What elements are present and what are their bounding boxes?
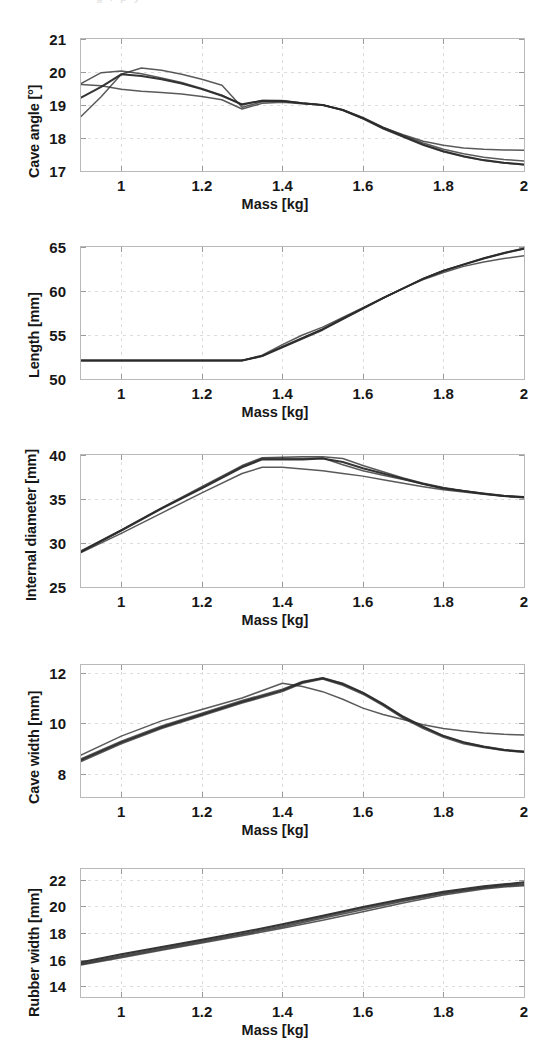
axis-label-x-cave-angle: Mass [kg] bbox=[0, 196, 550, 212]
series-line bbox=[81, 85, 524, 162]
x-tick-mark bbox=[524, 665, 525, 670]
series-line bbox=[81, 74, 524, 164]
x-tick-label: 1.4 bbox=[272, 593, 293, 610]
y-tick-mark bbox=[81, 587, 86, 588]
x-tick-label: 1.8 bbox=[433, 593, 454, 610]
y-tick-label: 17 bbox=[49, 163, 66, 180]
x-tick-label: 1 bbox=[117, 177, 125, 194]
series-line bbox=[81, 458, 524, 551]
y-tick-labels-cave-angle: 1718192021 bbox=[30, 18, 66, 178]
x-tick-label: 1.6 bbox=[352, 177, 373, 194]
x-tick-label: 1.6 bbox=[352, 1003, 373, 1020]
y-tick-label: 18 bbox=[49, 925, 66, 942]
x-tick-label: 2 bbox=[520, 1003, 528, 1020]
y-tick-label: 14 bbox=[49, 978, 66, 995]
x-tick-label: 1 bbox=[117, 593, 125, 610]
series-line bbox=[81, 256, 524, 361]
x-tick-label: 1.4 bbox=[272, 1003, 293, 1020]
series-line bbox=[81, 248, 524, 360]
plot-area-internal-diameter bbox=[80, 454, 525, 588]
y-tick-labels-rubber-width: 1416182022 bbox=[30, 852, 66, 1012]
series-line bbox=[81, 71, 524, 165]
x-tick-label: 1.8 bbox=[433, 177, 454, 194]
y-tick-label: 55 bbox=[49, 327, 66, 344]
series-layer bbox=[81, 247, 524, 379]
plot-area-rubber-width bbox=[80, 868, 525, 998]
x-tick-label: 1.8 bbox=[433, 1003, 454, 1020]
y-tick-label: 21 bbox=[49, 31, 66, 48]
y-tick-label: 16 bbox=[49, 951, 66, 968]
series-layer bbox=[81, 665, 524, 797]
series-line bbox=[81, 457, 524, 551]
y-tick-labels-cave-width: 81012 bbox=[30, 646, 66, 806]
y-tick-label: 12 bbox=[49, 664, 66, 681]
scan-artifact-text: g i p y bbox=[0, 0, 550, 9]
y-tick-label: 10 bbox=[49, 715, 66, 732]
series-line bbox=[81, 678, 524, 759]
y-tick-label: 50 bbox=[49, 371, 66, 388]
x-tick-label: 1.6 bbox=[352, 803, 373, 820]
y-tick-label: 18 bbox=[49, 130, 66, 147]
y-tick-mark bbox=[519, 587, 524, 588]
y-tick-labels-length: 50556065 bbox=[30, 228, 66, 388]
x-tick-label: 2 bbox=[520, 177, 528, 194]
x-tick-label: 1.6 bbox=[352, 593, 373, 610]
subplot-cave-angle: Cave angle [°] 1718192021 Mass [kg] 11.2… bbox=[0, 18, 550, 218]
x-tick-label: 1 bbox=[117, 803, 125, 820]
series-line bbox=[81, 679, 524, 762]
axis-label-x-length: Mass [kg] bbox=[0, 404, 550, 420]
y-tick-label: 60 bbox=[49, 283, 66, 300]
subplot-rubber-width: Rubber width [mm] 1416182022 Mass [kg] 1… bbox=[0, 852, 550, 1050]
y-tick-label: 22 bbox=[49, 871, 66, 888]
x-tick-label: 1.4 bbox=[272, 803, 293, 820]
y-tick-label: 20 bbox=[49, 898, 66, 915]
x-tick-label: 2 bbox=[520, 803, 528, 820]
y-tick-mark bbox=[519, 171, 524, 172]
x-tick-label: 1.2 bbox=[191, 177, 212, 194]
x-tick-label: 1.4 bbox=[272, 385, 293, 402]
x-tick-mark bbox=[524, 374, 525, 379]
x-tick-mark bbox=[524, 39, 525, 44]
series-line bbox=[81, 467, 524, 552]
y-tick-label: 25 bbox=[49, 579, 66, 596]
series-line bbox=[81, 886, 524, 965]
x-tick-mark bbox=[524, 455, 525, 460]
x-tick-mark bbox=[524, 869, 525, 874]
series-layer bbox=[81, 39, 524, 171]
plot-area-length bbox=[80, 246, 525, 380]
x-tick-label: 1.2 bbox=[191, 803, 212, 820]
x-tick-label: 1 bbox=[117, 385, 125, 402]
x-tick-mark bbox=[524, 166, 525, 171]
x-tick-label: 2 bbox=[520, 385, 528, 402]
series-line bbox=[81, 459, 524, 552]
y-tick-labels-internal-diameter: 25303540 bbox=[30, 436, 66, 596]
y-tick-label: 20 bbox=[49, 64, 66, 81]
y-tick-mark bbox=[81, 379, 86, 380]
plot-area-cave-width bbox=[80, 664, 525, 798]
x-tick-label: 2 bbox=[520, 593, 528, 610]
series-line bbox=[81, 678, 524, 760]
y-tick-label: 8 bbox=[58, 766, 66, 783]
x-tick-mark bbox=[524, 247, 525, 252]
x-tick-label: 1.2 bbox=[191, 385, 212, 402]
x-tick-label: 1.4 bbox=[272, 177, 293, 194]
x-tick-label: 1.2 bbox=[191, 1003, 212, 1020]
y-tick-label: 19 bbox=[49, 97, 66, 114]
axis-label-x-cave-width: Mass [kg] bbox=[0, 822, 550, 838]
subplot-cave-width: Cave width [mm] 81012 Mass [kg] 11.21.41… bbox=[0, 646, 550, 851]
x-tick-mark bbox=[524, 792, 525, 797]
y-tick-mark bbox=[81, 171, 86, 172]
y-tick-label: 35 bbox=[49, 491, 66, 508]
series-layer bbox=[81, 869, 524, 997]
y-tick-label: 30 bbox=[49, 535, 66, 552]
y-tick-mark bbox=[519, 379, 524, 380]
x-tick-label: 1 bbox=[117, 1003, 125, 1020]
plot-area-cave-angle bbox=[80, 38, 525, 172]
x-tick-label: 1.6 bbox=[352, 385, 373, 402]
series-line bbox=[81, 683, 524, 755]
x-tick-label: 1.8 bbox=[433, 385, 454, 402]
axis-label-x-internal-diameter: Mass [kg] bbox=[0, 612, 550, 628]
x-tick-mark bbox=[524, 992, 525, 997]
y-tick-label: 40 bbox=[49, 447, 66, 464]
series-layer bbox=[81, 455, 524, 587]
